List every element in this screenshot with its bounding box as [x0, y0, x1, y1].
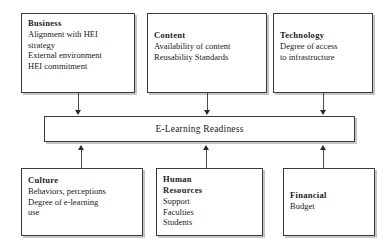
factor-box-business: Business Alignment with HEI strategy Ext… — [21, 13, 135, 93]
diagram-canvas: Business Alignment with HEI strategy Ext… — [0, 0, 392, 250]
factor-box-technology-line-1: Degree of access — [280, 41, 367, 52]
connector-human-resources-line — [206, 150, 207, 168]
factor-box-human-resources-title: Human Resources — [163, 174, 257, 196]
factor-box-business-line-4: HEI commitment — [28, 61, 129, 72]
factor-box-business-line-3: External environment — [28, 50, 129, 61]
factor-box-culture: Culture Behaviors, perceptions Degree of… — [21, 168, 143, 236]
factor-box-culture-line-1: Behaviors, perceptions — [28, 186, 137, 197]
arrow-down-icon — [320, 110, 326, 115]
factor-box-financial-title: Financial — [290, 190, 369, 201]
connector-financial-line — [323, 150, 324, 168]
arrow-down-icon — [204, 110, 210, 115]
factor-box-human-resources: Human Resources Support Faculties Studen… — [156, 168, 263, 236]
factor-box-business-line-1: Alignment with HEI — [28, 29, 129, 40]
factor-box-human-resources-line-2: Faculties — [163, 207, 257, 218]
factor-box-content-content: Content Availability of content Reusabil… — [148, 14, 266, 65]
factor-box-business-title: Business — [28, 18, 129, 29]
factor-box-human-resources-content: Human Resources Support Faculties Studen… — [157, 169, 262, 231]
factor-box-human-resources-line-3: Students — [163, 217, 257, 228]
center-box-e-learning-readiness: E-Learning Readiness — [44, 116, 355, 142]
factor-box-content-line-1: Availability of content — [154, 41, 261, 52]
factor-box-culture-line-3: use — [28, 207, 137, 218]
factor-box-technology-content: Technology Degree of access to infrastru… — [274, 14, 372, 65]
factor-box-business-content: Business Alignment with HEI strategy Ext… — [22, 14, 134, 74]
factor-box-business-line-2: strategy — [28, 40, 129, 51]
arrow-up-icon — [78, 145, 84, 150]
factor-box-culture-title: Culture — [28, 175, 137, 186]
factor-box-content-title: Content — [154, 30, 261, 41]
factor-box-content-line-2: Reusability Standards — [154, 52, 261, 63]
factor-box-culture-content: Culture Behaviors, perceptions Degree of… — [22, 169, 142, 221]
factor-box-financial-line-1: Budget — [290, 201, 369, 212]
factor-box-culture-line-2: Degree of e-learning — [28, 197, 137, 208]
factor-box-financial: Financial Budget — [283, 168, 375, 236]
factor-box-human-resources-line-1: Support — [163, 196, 257, 207]
factor-box-technology: Technology Degree of access to infrastru… — [273, 13, 373, 93]
arrow-up-icon — [203, 145, 209, 150]
center-box-label: E-Learning Readiness — [155, 124, 243, 134]
factor-box-technology-line-2: to infrastructure — [280, 52, 367, 63]
arrow-up-icon — [320, 145, 326, 150]
arrow-down-icon — [75, 110, 81, 115]
factor-box-content: Content Availability of content Reusabil… — [147, 13, 267, 93]
factor-box-technology-title: Technology — [280, 30, 367, 41]
factor-box-financial-content: Financial Budget — [284, 169, 374, 215]
connector-culture-line — [81, 150, 82, 168]
